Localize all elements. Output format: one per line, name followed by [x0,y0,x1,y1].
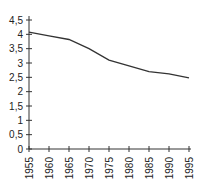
y-tick-label: 4,5 [9,15,23,26]
x-tick-label: 1975 [104,157,115,180]
data-line [29,32,189,78]
x-tick-label: 1985 [144,157,155,180]
y-tick-label: 2 [17,86,23,97]
x-tick-label: 1965 [64,157,75,180]
x-tick-label: 1995 [184,157,195,180]
y-tick-label: 3,5 [9,43,23,54]
x-tick-label: 1955 [24,157,35,180]
x-tick-label: 1980 [124,157,135,180]
y-tick-label: 4 [17,29,23,40]
y-tick-label: 1,5 [9,101,23,112]
x-tick-label: 1990 [164,157,175,180]
y-tick-label: 0,5 [9,129,23,140]
y-tick-label: 0 [17,144,23,155]
y-tick-label: 2,5 [9,72,23,83]
y-tick-label: 1 [17,115,23,126]
x-tick-label: 1970 [84,157,95,180]
y-tick-label: 3 [17,58,23,69]
x-axis: 195519601965197019751980198519901995 [24,146,195,179]
y-axis: 00,511,522,533,544,5 [9,15,32,155]
x-tick-label: 1960 [44,157,55,180]
line-chart: 00,511,522,533,544,5 1955196019651970197… [0,0,208,192]
